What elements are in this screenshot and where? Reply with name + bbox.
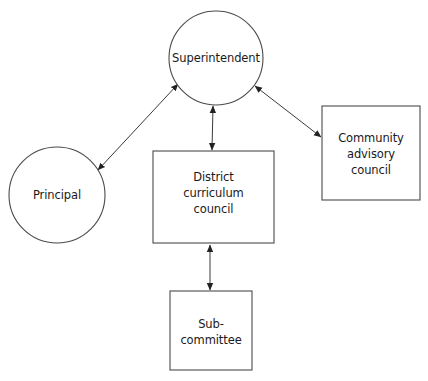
edge-superintendent-community-council (255, 86, 321, 137)
subcommittee-label-line-1: Sub- (198, 316, 224, 332)
community-council-label-line-2: advisory (347, 146, 395, 162)
community-advisory-council-node: Community advisory council (322, 106, 420, 200)
principal-node: Principal (9, 147, 105, 243)
district-council-label-line-3: council (194, 201, 234, 217)
district-council-label-line-1: District (193, 169, 234, 185)
district-council-label-line-2: curriculum (183, 185, 243, 201)
community-council-label-line-3: council (351, 162, 391, 178)
superintendent-node: Superintendent (169, 11, 263, 105)
principal-label: Principal (33, 187, 81, 203)
subcommittee-node: Sub- committee (170, 291, 252, 370)
community-council-label-line-1: Community (338, 130, 404, 146)
district-curriculum-council-node: District curriculum council (153, 151, 274, 235)
superintendent-label: Superintendent (172, 50, 260, 66)
edge-superintendent-district-council (212, 106, 213, 150)
subcommittee-label-line-2: committee (180, 332, 241, 348)
